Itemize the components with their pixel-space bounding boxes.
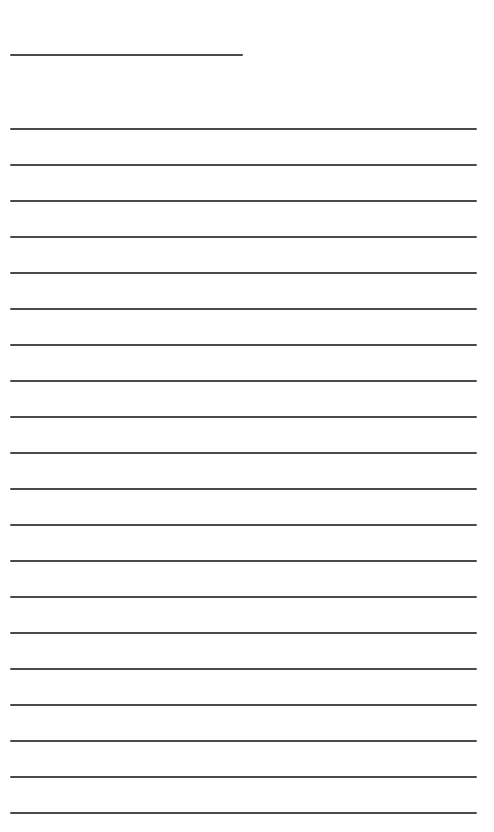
ruled-line xyxy=(10,164,477,166)
name-line xyxy=(10,54,243,56)
ruled-line xyxy=(10,776,477,778)
lined-paper-page xyxy=(0,0,494,832)
ruled-line xyxy=(10,560,477,562)
ruled-line xyxy=(10,596,477,598)
ruled-line xyxy=(10,632,477,634)
ruled-line xyxy=(10,488,477,490)
ruled-line xyxy=(10,452,477,454)
ruled-line xyxy=(10,416,477,418)
ruled-line xyxy=(10,812,477,814)
ruled-line xyxy=(10,308,477,310)
ruled-line xyxy=(10,704,477,706)
ruled-line xyxy=(10,272,477,274)
ruled-line xyxy=(10,200,477,202)
ruled-line xyxy=(10,740,477,742)
ruled-line xyxy=(10,380,477,382)
ruled-line xyxy=(10,524,477,526)
ruled-line xyxy=(10,668,477,670)
ruled-line xyxy=(10,344,477,346)
ruled-line xyxy=(10,236,477,238)
ruled-line xyxy=(10,128,477,130)
